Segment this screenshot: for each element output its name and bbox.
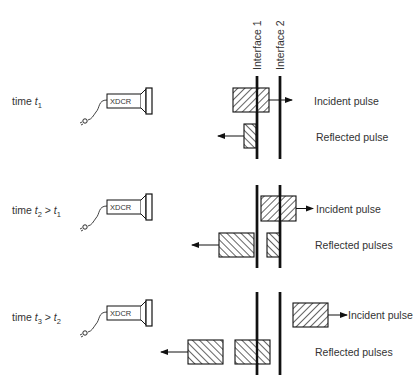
reflected-pulse	[267, 233, 280, 257]
plug-icon	[83, 331, 87, 335]
diagram-canvas: Interface 1 Interface 2 time t1XDCRIncid…	[0, 0, 420, 385]
plug-icon	[83, 225, 87, 229]
reflected-pulse	[244, 124, 256, 148]
incident-pulse-label: Incident pulse	[314, 95, 379, 107]
reflected-pulse-label: Reflected pulses	[315, 239, 393, 251]
interface-labels: Interface 1 Interface 2	[251, 20, 286, 70]
transducer-label: XDCR	[110, 97, 132, 106]
reflected-pulse	[235, 340, 270, 364]
transducer-icon: XDCR	[80, 194, 152, 231]
cable	[88, 312, 107, 332]
reflected-pulse-label: Reflected pulse	[316, 131, 389, 143]
incident-pulse-label: Incident pulse	[348, 309, 413, 321]
time-label: time t2 > t1	[12, 204, 61, 219]
transducer-icon: XDCR	[80, 300, 152, 337]
reflected-pulse	[188, 340, 223, 364]
time-label: time t3 > t2	[12, 311, 61, 326]
interface-1-label: Interface 1	[251, 20, 263, 70]
cable	[88, 100, 107, 120]
cable	[88, 206, 107, 226]
reflected-pulse	[219, 233, 254, 257]
time-panels: time t1XDCRIncident pulseReflected pulse…	[12, 76, 413, 375]
reflected-pulse-label: Reflected pulses	[315, 346, 393, 358]
interface-2-label: Interface 2	[274, 20, 286, 70]
transducer-label: XDCR	[110, 203, 132, 212]
ultrasound-reflection-diagram: Interface 1 Interface 2 time t1XDCRIncid…	[0, 0, 420, 385]
plug-icon	[83, 119, 87, 123]
panel-time-2: time t2 > t1XDCRIncident pulseReflected …	[12, 185, 393, 268]
time-label: time t1	[12, 95, 42, 110]
panel-time-1: time t1XDCRIncident pulseReflected pulse	[12, 76, 389, 159]
panel-time-3: time t3 > t2XDCRIncident pulseReflected …	[12, 292, 413, 375]
incident-pulse	[293, 303, 328, 327]
incident-pulse-label: Incident pulse	[316, 203, 381, 215]
transducer-icon: XDCR	[80, 88, 152, 125]
transducer-label: XDCR	[110, 309, 132, 318]
incident-pulse	[261, 196, 296, 221]
incident-pulse	[233, 88, 269, 112]
